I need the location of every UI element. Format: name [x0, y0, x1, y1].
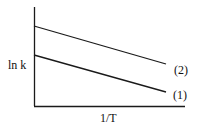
line-2-label: (2): [174, 64, 188, 76]
line-2: [34, 26, 166, 64]
line-1-label: (1): [173, 89, 187, 101]
x-axis-label: 1/T: [100, 112, 117, 124]
plot-area: [0, 0, 197, 128]
arrhenius-plot: ln k 1/T (2) (1): [0, 0, 197, 128]
y-axis-label: ln k: [8, 59, 26, 71]
line-1: [34, 55, 166, 92]
